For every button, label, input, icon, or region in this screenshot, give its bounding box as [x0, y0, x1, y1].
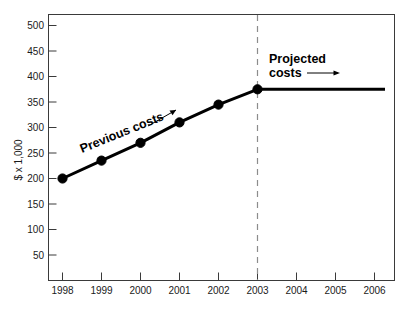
x-tick-label: 1998 [51, 285, 74, 296]
y-tick-label: 50 [33, 250, 45, 261]
x-tick-label: 2000 [129, 285, 152, 296]
projected-costs-annotation-line2: costs [269, 66, 302, 80]
x-tick-label: 2001 [168, 285, 191, 296]
x-tick-label: 2005 [324, 285, 347, 296]
x-axis-tick-labels: 1998 1999 2000 2001 2002 2003 2004 2005 … [51, 285, 386, 296]
y-axis-title: $ x 1,000 [13, 139, 24, 181]
y-tick-label: 100 [27, 224, 44, 235]
x-tick-label: 1999 [90, 285, 113, 296]
y-tick-label: 500 [27, 20, 44, 31]
y-tick-label: 150 [27, 199, 44, 210]
cost-projection-chart: 500 450 400 350 300 250 200 150 100 50 $… [0, 0, 411, 316]
x-tick-label: 2003 [246, 285, 269, 296]
data-point [136, 138, 145, 147]
y-tick-label: 400 [27, 71, 44, 82]
chart-svg: 500 450 400 350 300 250 200 150 100 50 $… [0, 0, 411, 316]
y-tick-label: 250 [27, 148, 44, 159]
x-tick-label: 2006 [363, 285, 386, 296]
projected-costs-annotation-line1: Projected [269, 52, 326, 66]
y-tick-label: 350 [27, 97, 44, 108]
data-point [58, 174, 67, 183]
chart-background [0, 0, 411, 316]
data-point [214, 100, 223, 109]
x-tick-label: 2004 [285, 285, 308, 296]
y-tick-label: 450 [27, 46, 44, 57]
data-point [175, 118, 184, 127]
x-tick-label: 2002 [207, 285, 230, 296]
data-point [253, 85, 262, 94]
y-tick-label: 200 [27, 173, 44, 184]
data-point [97, 156, 106, 165]
y-tick-label: 300 [27, 122, 44, 133]
